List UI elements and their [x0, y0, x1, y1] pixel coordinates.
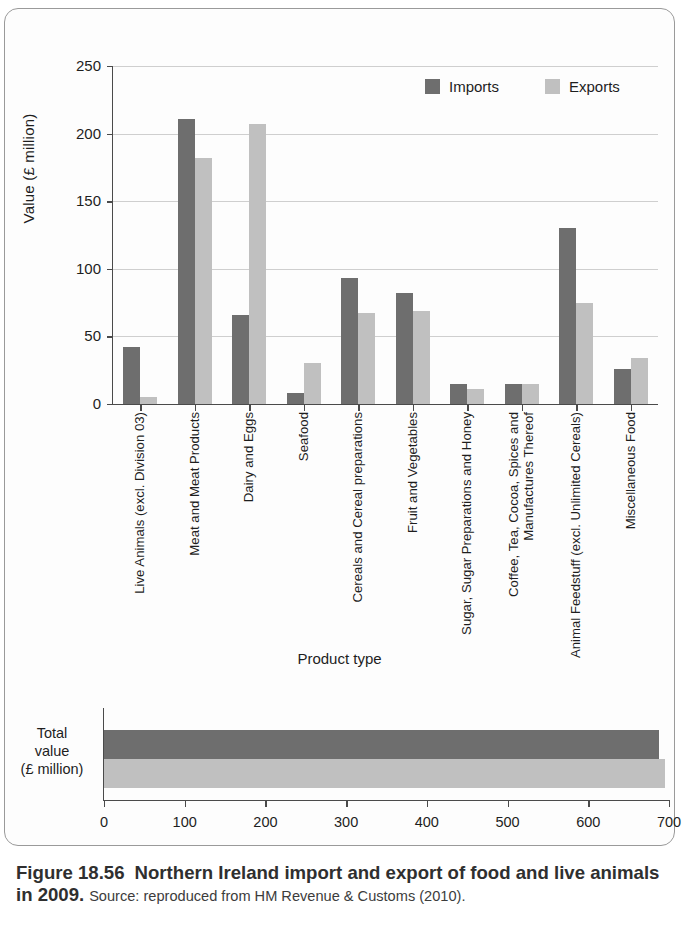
category-label-text: Fruit and Vegetables	[404, 412, 419, 533]
category-label-text: Seafood	[295, 412, 310, 461]
total-x-tick-label: 0	[82, 814, 126, 830]
x-axis-category-label: Cereals and Cereal preparations	[330, 412, 385, 642]
bar-imports	[450, 384, 467, 404]
total-x-tick-mark	[104, 800, 105, 807]
bar-group	[549, 66, 604, 404]
x-tick-mark	[631, 404, 632, 411]
bar-exports	[195, 158, 212, 404]
bar-exports	[522, 384, 539, 404]
bar-group	[495, 66, 550, 404]
category-label-text: Coffee, Tea, Cocoa, Spices and Manufactu…	[506, 412, 536, 622]
total-x-tick-mark	[427, 800, 428, 807]
y-tick-label: 100	[55, 260, 101, 277]
bar-imports	[559, 228, 576, 404]
x-axis-category-label: Miscellaneous Food	[603, 412, 658, 642]
y-tick-label: 200	[55, 125, 101, 142]
total-axis-label-line2: value	[6, 742, 98, 760]
x-tick-mark	[522, 404, 523, 411]
x-tick-mark	[304, 404, 305, 411]
total-x-tick-label: 700	[647, 814, 686, 830]
y-tick-label: 0	[55, 395, 101, 412]
x-tick-mark	[467, 404, 468, 411]
bar-exports	[249, 124, 266, 404]
x-axis-title: Product type	[0, 650, 679, 667]
total-x-tick-mark	[508, 800, 509, 807]
bar-series-container	[113, 66, 658, 404]
x-axis-category-label: Sugar, Sugar Preparations and Honey	[439, 412, 494, 642]
bar-exports	[358, 313, 375, 404]
bar-group	[168, 66, 223, 404]
bar-group	[222, 66, 277, 404]
y-tick-mark	[107, 404, 113, 405]
y-tick-label: 50	[55, 327, 101, 344]
total-axis-label: Total value (£ million)	[6, 724, 98, 778]
total-x-tick-label: 600	[566, 814, 610, 830]
y-tick-label: 150	[55, 192, 101, 209]
x-tick-mark	[576, 404, 577, 411]
caption-source: Source: reproduced from HM Revenue & Cus…	[89, 888, 465, 904]
y-tick-label: 250	[55, 57, 101, 74]
bar-imports	[396, 293, 413, 404]
category-label-text: Meat and Meat Products	[186, 412, 201, 556]
bar-group	[113, 66, 168, 404]
x-axis-category-labels: Live Animals (excl. Division 03)Meat and…	[112, 412, 657, 642]
category-label-text: Animal Feedstuff (excl. Unlimited Cereal…	[568, 412, 583, 658]
category-label-text: Cereals and Cereal preparations	[350, 412, 365, 603]
x-axis-category-label: Seafood	[276, 412, 331, 642]
x-axis-category-label: Coffee, Tea, Cocoa, Spices and Manufactu…	[494, 412, 549, 642]
plot-area: 050100150200250	[112, 66, 658, 405]
bar-exports	[413, 311, 430, 404]
bar-imports	[232, 315, 249, 404]
x-tick-mark	[249, 404, 250, 411]
total-x-tick-mark	[669, 800, 670, 807]
figure-caption: Figure 18.56 Northern Ireland import and…	[16, 862, 666, 907]
total-x-tick-mark	[346, 800, 347, 807]
total-value-chart: Total value (£ million) 0100200300400500…	[0, 700, 679, 850]
total-bar-imports	[104, 730, 659, 759]
x-axis-category-label: Animal Feedstuff (excl. Unlimited Cereal…	[548, 412, 603, 642]
x-tick-mark	[140, 404, 141, 411]
x-tick-mark	[413, 404, 414, 411]
bar-imports	[614, 369, 631, 404]
bar-exports	[467, 389, 484, 404]
total-x-tick-label: 400	[405, 814, 449, 830]
total-axis-label-line1: Total	[6, 724, 98, 742]
category-label-text: Live Animals (excl. Division 03)	[132, 412, 147, 594]
caption-figure-number: Figure 18.56	[16, 862, 125, 883]
total-axis-label-line3: (£ million)	[6, 760, 98, 778]
bar-imports	[123, 347, 140, 404]
bar-exports	[304, 363, 321, 404]
category-label-text: Dairy and Eggs	[241, 412, 256, 502]
bar-exports	[576, 303, 593, 404]
bar-imports	[505, 384, 522, 404]
category-label-text: Miscellaneous Food	[622, 412, 637, 529]
x-tick-mark	[195, 404, 196, 411]
category-label-text: Sugar, Sugar Preparations and Honey	[459, 412, 474, 635]
total-x-tick-label: 200	[243, 814, 287, 830]
total-x-tick-label: 100	[163, 814, 207, 830]
total-x-tick-mark	[185, 800, 186, 807]
total-x-tick-mark	[588, 800, 589, 807]
total-x-tick-label: 500	[486, 814, 530, 830]
x-axis-category-label: Dairy and Eggs	[221, 412, 276, 642]
total-plot-area: 0100200300400500600700	[103, 708, 669, 801]
x-tick-mark	[358, 404, 359, 411]
bar-imports	[341, 278, 358, 404]
bar-group	[386, 66, 441, 404]
total-x-tick-label: 300	[324, 814, 368, 830]
x-axis-category-label: Meat and Meat Products	[167, 412, 222, 642]
bar-imports	[287, 393, 304, 404]
main-bar-chart: Value (£ million) Imports Exports 050100…	[0, 0, 679, 690]
bar-group	[440, 66, 495, 404]
bar-exports	[140, 397, 157, 404]
bar-group	[331, 66, 386, 404]
bar-group	[277, 66, 332, 404]
total-bar-exports	[104, 759, 665, 788]
x-axis-category-label: Fruit and Vegetables	[385, 412, 440, 642]
bar-group	[604, 66, 659, 404]
total-x-tick-mark	[265, 800, 266, 807]
y-axis-title: Value (£ million)	[20, 59, 37, 279]
bar-imports	[178, 119, 195, 404]
bar-exports	[631, 358, 648, 404]
x-axis-category-label: Live Animals (excl. Division 03)	[112, 412, 167, 642]
